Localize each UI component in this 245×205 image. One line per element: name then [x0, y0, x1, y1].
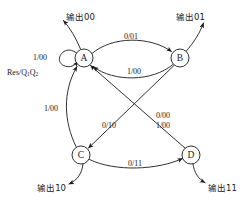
state-label-d: D: [188, 150, 195, 160]
state-diagram-canvas: A B C D 1/00 0/01 1/00 0/10 1/00 0/11 0/…: [0, 0, 245, 205]
edge-label-d-to-a-line2: 1/00: [156, 121, 170, 130]
state-node-a[interactable]: A: [75, 49, 93, 67]
output-label-a: 输出00: [66, 12, 95, 22]
output-arrow-b: [186, 23, 204, 52]
state-label-b: B: [177, 53, 183, 63]
edge-label-a-to-b: 0/01: [124, 32, 138, 41]
edge-c-to-a: [66, 67, 77, 147]
edge-label-b-to-a: 1/00: [127, 67, 141, 76]
output-arrow-d: [193, 164, 205, 183]
state-diagram-container: A B C D 1/00 0/01 1/00 0/10 1/00 0/11 0/…: [0, 0, 245, 205]
state-label-a: A: [81, 53, 88, 63]
edge-label-c-to-d: 0/11: [128, 159, 142, 168]
state-node-b[interactable]: B: [171, 49, 189, 67]
reset-label: Res/Q1Q2: [7, 68, 39, 78]
reset-label-main: Res/Q: [7, 68, 27, 77]
output-arrow-c: [69, 164, 83, 184]
output-label-b: 输出01: [176, 12, 205, 22]
state-label-c: C: [78, 150, 84, 160]
reset-label-sub2: 2: [36, 71, 39, 77]
output-label-c: 输出10: [37, 183, 66, 193]
edge-label-a-to-a: 1/00: [33, 53, 47, 62]
state-node-c[interactable]: C: [72, 146, 90, 164]
edge-label-c-to-a: 1/00: [44, 104, 58, 113]
output-arrow-a: [64, 21, 81, 50]
output-label-d: 输出11: [208, 183, 237, 193]
edge-label-b-to-c: 0/10: [102, 121, 116, 130]
edge-a-to-b: [92, 40, 172, 53]
state-node-d[interactable]: D: [182, 146, 200, 164]
edge-label-d-to-a-line1: 0/00: [156, 111, 170, 120]
